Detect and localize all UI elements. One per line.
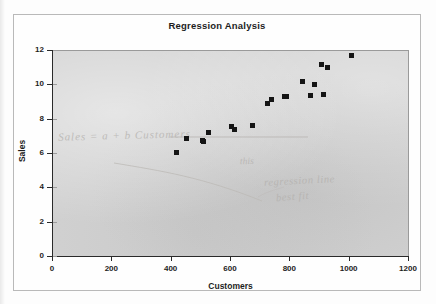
data-point-marker <box>284 94 289 99</box>
y-axis-tick <box>47 153 52 154</box>
x-axis-tick <box>111 256 112 261</box>
y-axis-tick <box>47 187 52 188</box>
x-axis-tick-label: 200 <box>91 264 131 273</box>
y-axis-tick <box>47 222 52 223</box>
data-point-marker <box>206 130 211 135</box>
y-axis-tick-label: 0 <box>16 251 44 260</box>
y-axis-tick <box>47 50 52 51</box>
scanned-page: Regression Analysis Sales = a + b Custom… <box>0 0 436 304</box>
data-point-marker <box>312 82 317 87</box>
x-axis-tick-label: 600 <box>210 264 250 273</box>
x-axis-tick-label: 1000 <box>329 264 369 273</box>
x-axis-tick <box>52 256 53 261</box>
x-axis-tick <box>349 256 350 261</box>
data-point-marker <box>184 136 189 141</box>
x-axis-title: Customers <box>52 281 409 291</box>
ghost-handwriting-2: this <box>240 156 254 166</box>
y-axis-tick-label: 10 <box>16 79 44 88</box>
ghost-handwriting-1: Sales = a + b Customers <box>58 127 191 142</box>
x-axis-tick <box>230 256 231 261</box>
data-point-marker <box>349 53 354 58</box>
data-point-marker <box>325 65 330 70</box>
y-axis-tick-label: 12 <box>16 45 44 54</box>
x-axis-tick-label: 800 <box>269 264 309 273</box>
x-axis-tick-label: 400 <box>151 264 191 273</box>
chart-title: Regression Analysis <box>13 20 421 31</box>
y-axis-title: Sales <box>17 121 27 181</box>
x-axis-tick <box>171 256 172 261</box>
scan-edge-shadow <box>0 0 5 304</box>
x-axis-tick-label: 0 <box>32 264 72 273</box>
ghost-handwriting-3: regression line <box>264 173 335 188</box>
y-axis-tick-inner <box>53 153 57 154</box>
data-point-marker <box>308 93 313 98</box>
y-axis-tick-inner <box>53 187 57 188</box>
y-axis-tick-inner <box>53 256 57 257</box>
y-axis-tick-inner <box>53 119 57 120</box>
y-axis-tick-inner <box>53 84 57 85</box>
data-point-marker <box>300 79 305 84</box>
data-point-marker <box>269 97 274 102</box>
plot-area: Sales = a + b Customers this regression … <box>52 50 409 257</box>
y-axis-tick-label: 2 <box>16 217 44 226</box>
data-point-marker <box>174 150 179 155</box>
y-axis-tick-inner <box>53 222 57 223</box>
y-axis-tick <box>47 119 52 120</box>
scan-noise-overlay <box>52 51 408 257</box>
x-axis-tick <box>408 256 409 261</box>
y-axis-tick-inner <box>53 50 57 51</box>
y-axis-tick <box>47 84 52 85</box>
ghost-handwriting-4: best fit <box>276 190 310 203</box>
x-axis-tick-label: 1200 <box>388 264 428 273</box>
data-point-marker <box>201 139 206 144</box>
data-point-marker <box>232 127 237 132</box>
y-axis-tick-label: 4 <box>16 182 44 191</box>
data-point-marker <box>321 92 326 97</box>
x-axis-tick <box>289 256 290 261</box>
ghost-pencil-curve <box>52 51 408 257</box>
data-point-marker <box>319 62 324 67</box>
data-point-marker <box>265 101 270 106</box>
data-point-marker <box>250 123 255 128</box>
